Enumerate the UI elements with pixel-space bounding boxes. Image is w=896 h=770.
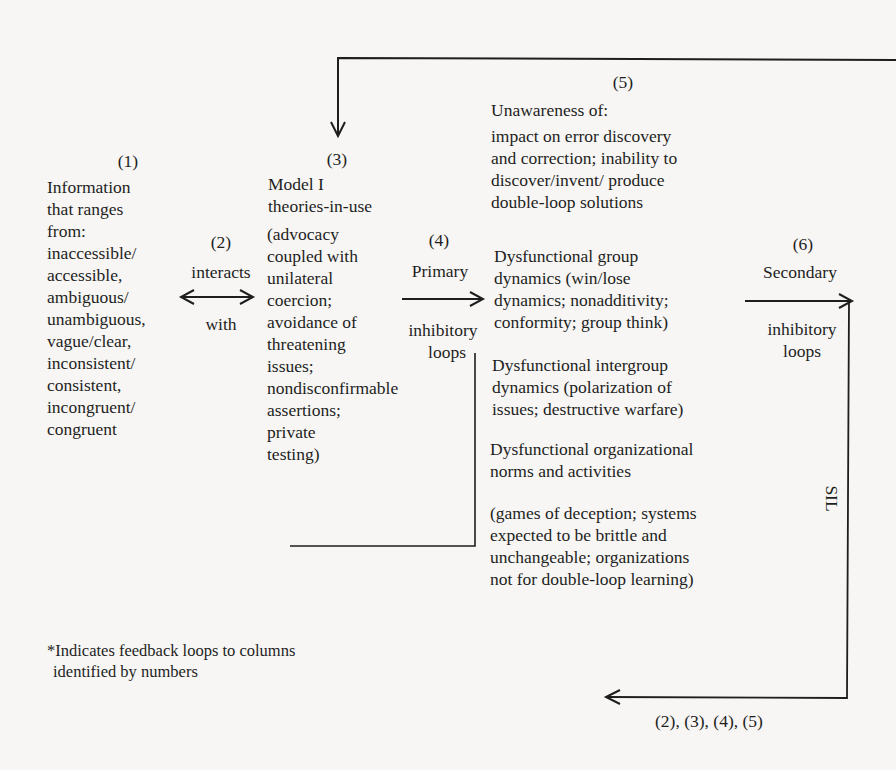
col5-block-unawareness: impact on error discovery and correction… [491,125,677,213]
col2-label-below: with [186,313,256,335]
top-feedback-line [338,58,896,134]
col1-number: (1) [103,150,153,172]
sil-label: SIL [821,485,842,511]
col2-label-above: interacts [176,261,266,283]
col5-number: (5) [598,71,648,93]
col5-block-group-dynamics: Dysfunctional group dynamics (win/lose d… [494,245,669,333]
col3-title: Model I theories-in-use [268,173,372,217]
col4-number: (4) [414,229,464,251]
col5-block-intergroup: Dysfunctional intergroup dynamics (polar… [492,354,683,420]
col2-number: (2) [186,231,256,253]
footnote: *Indicates feedback loops to columns ide… [47,640,295,682]
col6-label-below: inhibitory loops [752,318,852,362]
col3-text: (advocacy coupled with unilateral coerci… [267,223,398,465]
feedback-columns-label: (2), (3), (4), (5) [655,710,763,732]
col4-label-below: inhibitory loops [398,319,488,363]
col1-text: Information that ranges from: inaccessib… [47,176,146,440]
col4-label-above: Primary [400,260,480,282]
col6-number: (6) [778,233,828,255]
col6-label-above: Secondary [750,261,850,283]
col5-block-organizational: Dysfunctional organizational norms and a… [490,438,693,482]
col3-number: (3) [312,148,362,170]
col5-heading: Unawareness of: [491,99,608,121]
col5-block-games: (games of deception; systems expected to… [490,502,697,590]
